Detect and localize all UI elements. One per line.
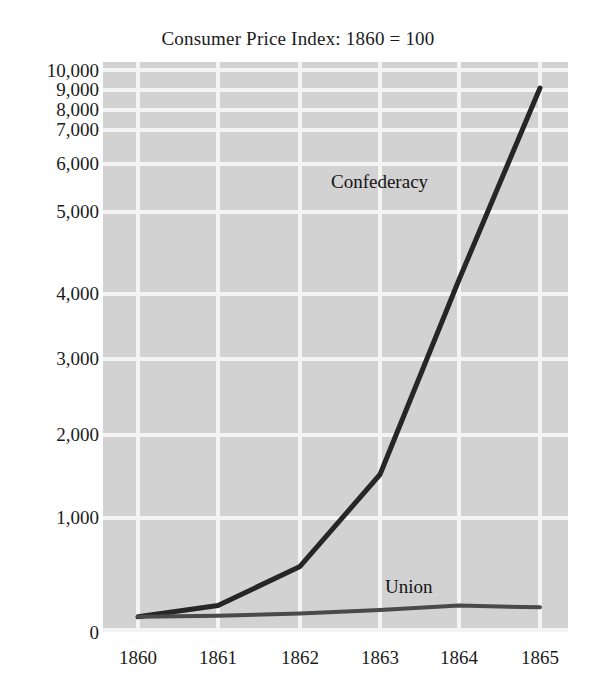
line-series-confederacy [138, 88, 540, 617]
plot-area [103, 62, 568, 632]
x-axis-tick-label: 1864 [419, 648, 499, 667]
x-axis-tick-label: 1863 [340, 648, 420, 667]
x-axis-tick-label: 1861 [178, 648, 258, 667]
y-axis-tick-label: 9,000 [3, 80, 99, 99]
y-axis-tick-label: 5,000 [3, 202, 99, 221]
series-label-confederacy: Confederacy [331, 172, 428, 191]
y-axis-tick-label: 6,000 [3, 154, 99, 173]
y-axis-tick-label: 0 [3, 623, 99, 642]
y-axis-tick-label: 2,000 [3, 425, 99, 444]
x-axis-tick-label: 1860 [98, 648, 178, 667]
series-label-union: Union [385, 577, 433, 596]
x-axis-tick-label: 1865 [500, 648, 580, 667]
y-axis-tick-label: 8,000 [3, 100, 99, 119]
y-axis: 10,000 9,000 8,000 7,000 6,000 5,000 4,0… [0, 0, 99, 693]
y-axis-tick-label: 10,000 [3, 61, 99, 80]
y-axis-tick-label: 7,000 [3, 120, 99, 139]
y-axis-tick-label: 1,000 [3, 508, 99, 527]
y-axis-tick-label: 3,000 [3, 349, 99, 368]
series-lines [103, 62, 568, 632]
x-axis-tick-label: 1862 [260, 648, 340, 667]
y-axis-tick-label: 4,000 [3, 284, 99, 303]
chart-figure: Consumer Price Index: 1860 = 100 10,000 … [0, 0, 596, 693]
